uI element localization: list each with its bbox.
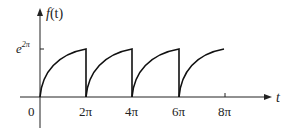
x-tick-label-8pi: 8π — [218, 104, 232, 119]
f-curve — [40, 49, 224, 97]
f-axis-arrow-icon — [37, 8, 43, 16]
x-tick-label-6pi: 6π — [172, 104, 186, 119]
x-tick-label-4pi: 4π — [125, 104, 139, 119]
x-tick-label-2pi: 2π — [79, 104, 93, 119]
x-tick-label-0: 0 — [28, 104, 35, 119]
t-axis-arrow-icon — [264, 94, 272, 100]
x-axis-label: t — [276, 90, 281, 105]
chart: f(t) e2π t 0 2π 4π 6π 8π — [0, 0, 292, 132]
y-tick-label: e2π — [16, 40, 31, 56]
y-axis-label: f(t) — [46, 6, 63, 22]
